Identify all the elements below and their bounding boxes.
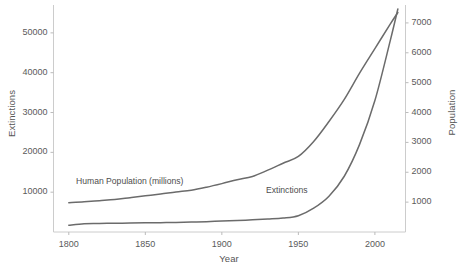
left-tick-label: 50000	[0, 27, 48, 37]
extinctions-population-chart: Extinctions Population Year Human Popula…	[0, 0, 461, 273]
right-axis-title: Population	[446, 83, 457, 143]
x-tick-label: 1900	[197, 239, 247, 249]
right-tick-label: 1000	[412, 196, 432, 206]
left-tick-label: 10000	[0, 186, 48, 196]
right-tick-label: 6000	[412, 47, 432, 57]
right-tick-label: 3000	[412, 136, 432, 146]
x-axis-title: Year	[199, 253, 259, 264]
x-tick-label: 1850	[120, 239, 170, 249]
right-tick-label: 5000	[412, 77, 432, 87]
extinctions-series-label: Extinctions	[266, 185, 308, 195]
left-tick-label: 20000	[0, 146, 48, 156]
right-tick-label: 4000	[412, 107, 432, 117]
right-tick-label: 2000	[412, 166, 432, 176]
extinctions-line	[69, 9, 398, 225]
population-series-label: Human Population (millions)	[76, 176, 183, 186]
x-tick-label: 1800	[44, 239, 94, 249]
left-tick-label: 30000	[0, 107, 48, 117]
population-line	[69, 12, 398, 202]
x-tick-label: 1950	[273, 239, 323, 249]
chart-canvas	[0, 0, 461, 273]
x-tick-label: 2000	[350, 239, 400, 249]
right-tick-label: 7000	[412, 17, 432, 27]
left-tick-label: 40000	[0, 67, 48, 77]
